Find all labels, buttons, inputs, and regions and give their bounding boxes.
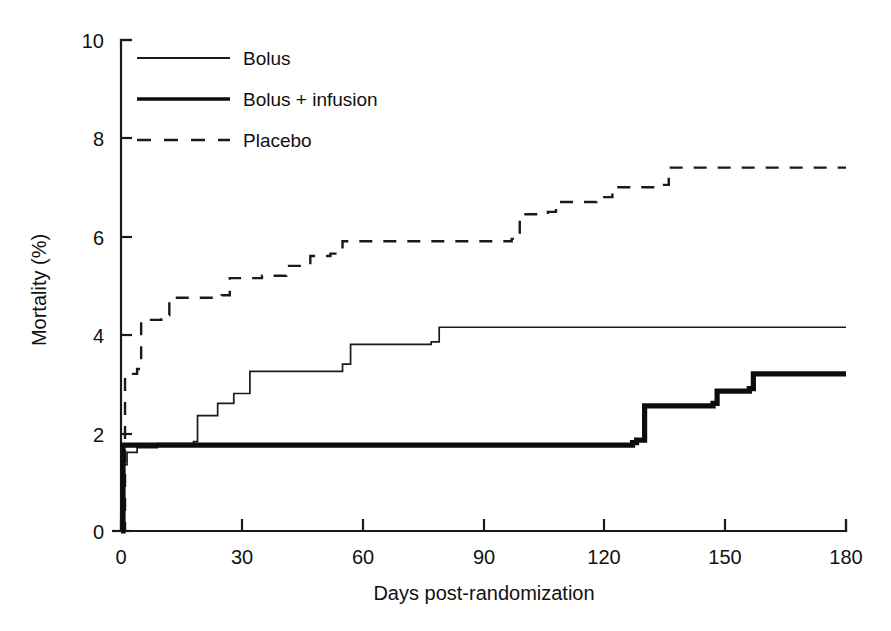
series-group bbox=[121, 168, 846, 531]
x-tick-label-150: 150 bbox=[708, 546, 741, 568]
y-tick-label-8: 8 bbox=[93, 128, 104, 150]
x-tick-label-0: 0 bbox=[115, 546, 126, 568]
series-path-placebo bbox=[121, 168, 846, 531]
y-tick-label-2: 2 bbox=[93, 424, 104, 446]
x-ticks-group: 0 30 60 90 120 150 180 bbox=[115, 519, 862, 568]
x-tick-label-90: 90 bbox=[473, 546, 495, 568]
x-tick-label-60: 60 bbox=[352, 546, 374, 568]
x-axis-title: Days post-randomization bbox=[373, 582, 594, 604]
x-tick-label-30: 30 bbox=[231, 546, 253, 568]
y-axis-title: Mortality (%) bbox=[28, 234, 50, 346]
y-tick-label-4: 4 bbox=[93, 325, 104, 347]
series-path-bolus-infusion bbox=[121, 374, 846, 531]
legend-label-bolus: Bolus bbox=[243, 48, 291, 69]
y-tick-label-10: 10 bbox=[82, 30, 104, 52]
mortality-survival-chart: 10 8 6 4 2 0 0 30 60 90 120 150 180 Days… bbox=[0, 0, 891, 631]
y-tick-label-6: 6 bbox=[93, 227, 104, 249]
legend-label-bolus-infusion: Bolus + infusion bbox=[243, 89, 378, 110]
legend-label-placebo: Placebo bbox=[243, 130, 312, 151]
x-tick-label-120: 120 bbox=[587, 546, 620, 568]
series-path-bolus bbox=[121, 327, 846, 531]
axes-group bbox=[121, 40, 846, 531]
y-tick-label-0: 0 bbox=[93, 521, 104, 543]
figure-mortality-chart: 10 8 6 4 2 0 0 30 60 90 120 150 180 Days… bbox=[0, 0, 891, 631]
legend: Bolus Bolus + infusion Placebo bbox=[137, 48, 378, 151]
x-tick-label-180: 180 bbox=[829, 546, 862, 568]
